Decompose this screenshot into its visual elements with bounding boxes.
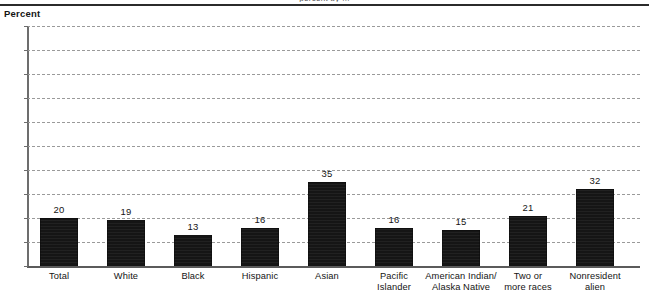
- y-axis-tick-mark: [24, 50, 28, 51]
- y-axis-tick-mark: [24, 98, 28, 99]
- x-axis-category-label: Black: [181, 271, 204, 282]
- y-axis-tick-mark: [24, 122, 28, 123]
- x-axis-category-label: Asian: [315, 271, 339, 282]
- bar: [107, 220, 145, 266]
- bar-value-label: 15: [456, 216, 467, 227]
- bar-value-label: 16: [389, 214, 400, 225]
- x-axis-category-label: Hispanic: [242, 271, 278, 282]
- bar: [308, 182, 346, 266]
- y-axis-tick-mark: [24, 146, 28, 147]
- bar-value-label: 20: [54, 204, 65, 215]
- x-axis-category-label: Nonresident alien: [569, 271, 620, 293]
- bar: [241, 228, 279, 266]
- gridline: [27, 146, 640, 147]
- gridline: [27, 266, 640, 267]
- chart-plot-area: 1009080706050403020100201913163516152132: [27, 26, 640, 266]
- bar: [174, 235, 212, 266]
- bar-value-label: 32: [590, 175, 601, 186]
- bar: [375, 228, 413, 266]
- y-axis-tick-mark: [24, 26, 28, 27]
- y-axis-tick-mark: [24, 218, 28, 219]
- gridline: [27, 26, 640, 27]
- x-axis-category-label: Pacific Islander: [377, 271, 411, 293]
- y-axis-tick-mark: [24, 242, 28, 243]
- bar-value-label: 21: [523, 202, 534, 213]
- clipped-header-text: percent by ...: [0, 0, 649, 2]
- bar-value-label: 13: [188, 221, 199, 232]
- y-axis-tick-mark: [24, 194, 28, 195]
- x-axis-category-label: Total: [49, 271, 69, 282]
- gridline: [27, 50, 640, 51]
- x-axis-category-label: American Indian/ Alaska Native: [425, 271, 496, 293]
- header-divider: [0, 4, 649, 6]
- bar: [40, 218, 78, 266]
- x-axis-category-label: White: [114, 271, 138, 282]
- gridline: [27, 122, 640, 123]
- y-axis-tick-mark: [24, 170, 28, 171]
- y-axis-tick-mark: [24, 266, 28, 267]
- bar-value-label: 35: [322, 168, 333, 179]
- gridline: [27, 98, 640, 99]
- x-axis-category-label: Two or more races: [504, 271, 552, 293]
- bar-value-label: 19: [121, 206, 132, 217]
- gridline: [27, 170, 640, 171]
- gridline: [27, 74, 640, 75]
- bar: [442, 230, 480, 266]
- bar-value-label: 16: [255, 214, 266, 225]
- y-axis-tick-mark: [24, 74, 28, 75]
- bar: [509, 216, 547, 266]
- y-axis-unit-label: Percent: [4, 8, 40, 19]
- bar: [576, 189, 614, 266]
